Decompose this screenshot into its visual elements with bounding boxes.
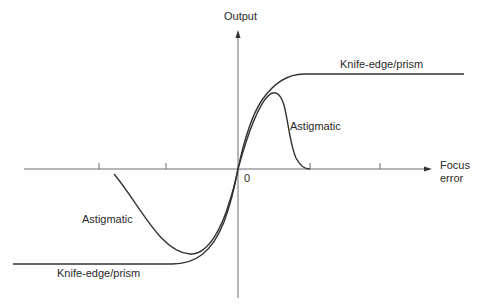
origin-label: 0 [244,172,250,185]
y-axis-arrow-icon [236,30,241,38]
x-axis-label-line1: Focus [440,159,470,172]
focus-error-diagram [0,0,484,307]
x-axis-arrow-icon [424,167,432,172]
y-axis-label: Output [224,10,257,23]
astigmatic-label-top: Astigmatic [290,120,341,133]
knife-edge-label-bottom: Knife-edge/prism [57,267,140,280]
astigmatic-label-bottom: Astigmatic [82,213,133,226]
x-axis-label-line2: error [440,172,463,185]
knife-edge-label-top: Knife-edge/prism [340,58,423,71]
astigmatic-curve [114,93,310,254]
